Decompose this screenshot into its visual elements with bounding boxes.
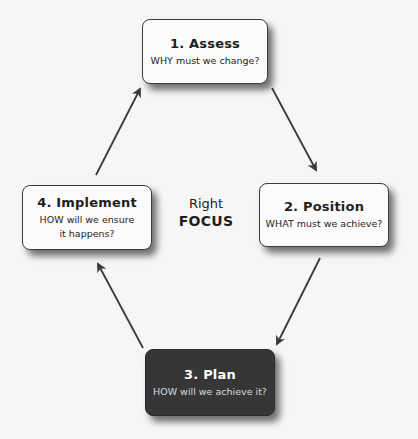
center-label-line2: FOCUS xyxy=(170,212,242,230)
step-plan-subtitle: HOW will we achieve it? xyxy=(149,385,271,399)
step-assess-box: 1. Assess WHY must we change? xyxy=(142,19,268,84)
step-plan-box: 3. Plan HOW will we achieve it? xyxy=(145,349,275,416)
step-assess-title: 1. Assess xyxy=(170,36,240,52)
step-implement-title: 4. Implement xyxy=(37,195,137,211)
step-assess-subtitle: WHY must we change? xyxy=(147,54,264,68)
step-implement-box: 4. Implement HOW will we ensure it happe… xyxy=(22,185,152,250)
arrow-implement-to-assess xyxy=(96,89,140,175)
arrow-plan-to-implement xyxy=(98,264,143,348)
step-position-title: 2. Position xyxy=(284,199,364,215)
arrow-assess-to-position xyxy=(272,88,316,170)
step-position-subtitle: WHAT must we achieve? xyxy=(262,217,387,231)
arrow-position-to-plan xyxy=(277,258,320,344)
center-label-line1: Right xyxy=(170,195,242,212)
focus-cycle-diagram: 1. Assess WHY must we change? 2. Positio… xyxy=(0,0,418,439)
center-label: Right FOCUS xyxy=(170,195,242,230)
step-position-box: 2. Position WHAT must we achieve? xyxy=(259,183,389,247)
step-implement-subtitle: HOW will we ensure it happens? xyxy=(33,213,141,241)
step-plan-title: 3. Plan xyxy=(184,367,236,383)
